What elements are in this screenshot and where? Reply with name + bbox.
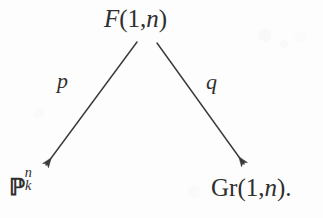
arrow-p-line <box>46 42 137 165</box>
projective-space-subscript: k <box>25 178 31 192</box>
projective-space-indices: nk <box>25 172 39 195</box>
node-projective-space: ℙnk <box>9 172 39 199</box>
apex-close-paren: ) <box>159 5 167 32</box>
node-apex: F(1,n) <box>104 6 167 31</box>
commutative-diagram: F(1,n) ℙnk Gr(1,n). p q <box>0 0 323 218</box>
grassmannian-first-arg: 1 <box>246 174 259 201</box>
grassmannian-second-arg: n <box>264 174 277 201</box>
node-grassmannian: Gr(1,n). <box>211 175 292 200</box>
apex-second-arg: n <box>146 5 159 32</box>
apex-first-arg: 1 <box>128 5 141 32</box>
grassmannian-open-paren: ( <box>237 174 245 201</box>
arrow-label-p: p <box>57 70 68 92</box>
grassmannian-name: Gr <box>211 174 237 201</box>
blackboard-p-symbol: ℙ <box>9 175 25 200</box>
arrow-label-q: q <box>206 71 217 93</box>
apex-open-paren: ( <box>119 5 127 32</box>
grassmannian-period: . <box>285 174 291 201</box>
apex-function-letter: F <box>104 5 119 32</box>
arrow-q-line <box>157 43 244 164</box>
